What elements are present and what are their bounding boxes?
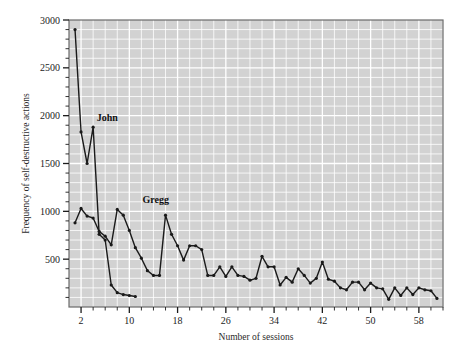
data-point — [104, 235, 107, 238]
data-point — [212, 274, 215, 277]
data-point — [182, 259, 185, 262]
data-point — [381, 287, 384, 290]
y-axis: 50010001500200025003000Frequency of self… — [21, 15, 69, 298]
x-tick-label: 18 — [173, 315, 183, 326]
x-tick-label: 10 — [124, 315, 134, 326]
data-point — [230, 265, 233, 268]
series-label-gregg: Gregg — [143, 194, 169, 205]
data-point — [357, 281, 360, 284]
data-point — [194, 244, 197, 247]
line-chart: 50010001500200025003000Frequency of self… — [0, 0, 458, 349]
data-point — [236, 274, 239, 277]
data-point — [200, 248, 203, 251]
data-point — [399, 294, 402, 297]
y-tick-label: 500 — [45, 254, 60, 265]
data-point — [339, 286, 342, 289]
data-point — [122, 293, 125, 296]
data-point — [279, 283, 282, 286]
x-tick-label: 2 — [79, 315, 84, 326]
data-point — [369, 281, 372, 284]
data-point — [285, 276, 288, 279]
data-point — [333, 280, 336, 283]
data-point — [188, 244, 191, 247]
y-tick-label: 3000 — [40, 15, 60, 26]
data-point — [309, 281, 312, 284]
data-point — [73, 221, 76, 224]
data-point — [128, 294, 131, 297]
data-point — [303, 274, 306, 277]
data-point — [98, 230, 101, 233]
data-point — [92, 216, 95, 219]
data-point — [417, 286, 420, 289]
data-point — [351, 281, 354, 284]
data-point — [122, 214, 125, 217]
data-point — [85, 215, 88, 218]
data-point — [345, 288, 348, 291]
data-point — [116, 291, 119, 294]
data-point — [429, 289, 432, 292]
x-tick-label: 50 — [366, 315, 376, 326]
data-point — [248, 279, 251, 282]
data-point — [152, 274, 155, 277]
data-point — [79, 130, 82, 133]
data-point — [110, 283, 113, 286]
data-point — [73, 28, 76, 31]
data-point — [321, 260, 324, 263]
data-point — [110, 243, 113, 246]
data-point — [164, 214, 167, 217]
data-point — [116, 208, 119, 211]
data-point — [158, 274, 161, 277]
x-tick-label: 34 — [269, 315, 279, 326]
y-tick-label: 1500 — [40, 158, 60, 169]
x-tick-label: 26 — [221, 315, 231, 326]
chart-container: 50010001500200025003000Frequency of self… — [0, 0, 458, 349]
y-tick-label: 2000 — [40, 110, 60, 121]
data-point — [218, 265, 221, 268]
data-point — [297, 267, 300, 270]
x-axis: 210182634425058Number of sessions — [79, 307, 443, 342]
data-point — [387, 298, 390, 301]
data-point — [315, 277, 318, 280]
data-point — [242, 275, 245, 278]
x-tick-label: 58 — [414, 315, 424, 326]
data-point — [176, 244, 179, 247]
data-point — [128, 229, 131, 232]
data-point — [435, 297, 438, 300]
x-axis-title: Number of sessions — [219, 332, 294, 342]
data-point — [92, 126, 95, 129]
data-point — [254, 277, 257, 280]
data-point — [393, 286, 396, 289]
data-point — [266, 265, 269, 268]
data-point — [405, 286, 408, 289]
data-point — [134, 295, 137, 298]
data-point — [327, 278, 330, 281]
y-tick-label: 1000 — [40, 206, 60, 217]
y-tick-label: 2500 — [40, 62, 60, 73]
data-point — [85, 162, 88, 165]
data-point — [363, 288, 366, 291]
y-axis-title: Frequency of self-destructive actions — [21, 93, 31, 234]
data-point — [375, 286, 378, 289]
data-point — [411, 293, 414, 296]
data-point — [170, 233, 173, 236]
data-point — [134, 246, 137, 249]
data-point — [146, 269, 149, 272]
data-point — [260, 255, 263, 258]
data-point — [291, 281, 294, 284]
series-label-john: John — [97, 112, 119, 123]
data-point — [206, 274, 209, 277]
data-point — [423, 288, 426, 291]
x-tick-label: 42 — [317, 315, 327, 326]
data-point — [140, 257, 143, 260]
data-point — [79, 207, 82, 210]
data-point — [272, 265, 275, 268]
data-point — [224, 275, 227, 278]
